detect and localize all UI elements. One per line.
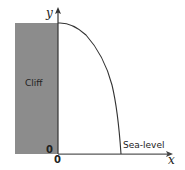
origin-x-label: 0 xyxy=(54,154,61,165)
cliff-block xyxy=(15,23,58,154)
trajectory-curve xyxy=(58,23,121,154)
x-axis-label: x xyxy=(168,153,175,167)
sea-level-label: Sea-level xyxy=(123,140,164,150)
cliff-projectile-diagram: y x Cliff Sea-level 0 0 xyxy=(0,0,185,170)
cliff-label: Cliff xyxy=(25,78,43,88)
y-axis-label: y xyxy=(45,6,53,20)
origin-y-label: 0 xyxy=(46,144,53,155)
